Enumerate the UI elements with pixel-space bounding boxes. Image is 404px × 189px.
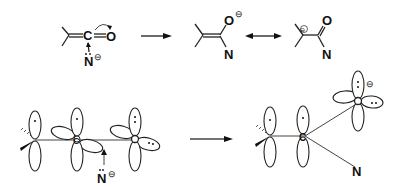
negative-charge: ⊖ — [94, 52, 102, 62]
nitrogen-label: N — [352, 164, 361, 179]
carbon-label: C — [83, 28, 93, 43]
nitrogen-label: N — [97, 171, 106, 186]
resonance-arrow — [245, 33, 282, 39]
reaction-diagram: C O N ⊖ O ⊖ N ⊖ — [0, 0, 404, 189]
carbon-label: C — [73, 136, 80, 146]
orbital-reactant: C N ⊖ — [20, 108, 161, 186]
negative-charge: ⊖ — [235, 9, 243, 19]
negative-charge: ⊖ — [300, 27, 305, 33]
oxygen-label: O — [322, 13, 332, 28]
enolate-product: O ⊖ N — [195, 9, 243, 62]
nitrogen-label: N — [224, 47, 233, 62]
negative-charge: ⊖ — [366, 79, 374, 89]
oxygen-label: O — [224, 13, 234, 28]
forward-arrow-top — [141, 33, 172, 39]
forward-arrow-bottom — [190, 136, 233, 142]
ketene-reactant: C O N ⊖ — [62, 24, 116, 69]
nitrogen-label: N — [84, 54, 93, 69]
carbon-label: C — [299, 132, 306, 143]
oxygen-label: O — [106, 29, 116, 44]
nitrogen-label: N — [322, 47, 331, 62]
negative-charge: ⊖ — [108, 169, 116, 179]
carbanion-product: ⊖ O N — [295, 13, 332, 62]
orbital-product: C ⊖ N — [255, 71, 383, 179]
